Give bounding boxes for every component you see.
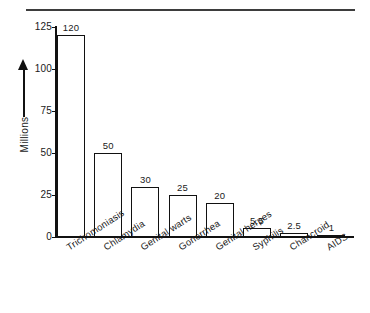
y-axis-tick-label: 75 bbox=[28, 106, 52, 116]
bar-value-label: 30 bbox=[125, 175, 165, 185]
y-axis-tick-mark bbox=[52, 195, 56, 196]
bar-value-label: 50 bbox=[88, 141, 128, 151]
y-axis-tick-label: 50 bbox=[28, 148, 52, 158]
bar bbox=[57, 35, 85, 237]
y-axis-tick-label: 25 bbox=[28, 190, 52, 200]
horizontal-rule-icon bbox=[26, 9, 355, 11]
y-axis-tick-mark bbox=[52, 69, 56, 70]
y-axis-tick-label: 125 bbox=[28, 22, 52, 32]
y-axis-tick-label: 100 bbox=[28, 64, 52, 74]
bar-chart-figure: Millions 0255075100125 120503025205.52.5… bbox=[0, 0, 370, 313]
bar-value-label: 120 bbox=[51, 23, 91, 33]
y-axis-tick-mark bbox=[52, 237, 56, 238]
y-axis-tick-label: 0 bbox=[28, 232, 52, 242]
y-axis-tick-mark bbox=[52, 153, 56, 154]
bar-value-label: 20 bbox=[200, 191, 240, 201]
y-axis-tick-labels: 0255075100125 bbox=[24, 0, 52, 313]
y-axis-tick-mark bbox=[52, 111, 56, 112]
bar-value-label: 25 bbox=[163, 183, 203, 193]
